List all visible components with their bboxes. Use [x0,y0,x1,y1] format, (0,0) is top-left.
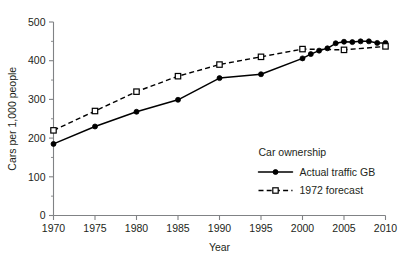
data-point-marker [308,52,313,57]
y-axis-tick-label: 100 [28,171,46,183]
legend-entry-2: 1972 forecast [259,184,364,196]
x-axis-tick-label: 1990 [208,222,232,234]
chart-container: 0100200300400500Cars per 1,000 people197… [0,0,409,266]
data-point-marker [366,39,371,44]
x-axis-tick-label: 2000 [291,222,315,234]
data-point-marker [350,40,355,45]
data-point-marker [175,73,180,78]
data-point-marker [259,72,264,77]
y-axis-title: Cars per 1,000 people [6,67,18,171]
data-point-marker [51,141,56,146]
legend-entry-1: Actual traffic GB [259,166,376,178]
data-point-marker [217,62,222,67]
data-point-marker [383,44,388,49]
data-point-marker [51,128,56,133]
y-axis-tick-label: 400 [28,54,46,66]
legend-title: Car ownership [259,146,327,158]
series-line-actual-traffic-gb [54,41,386,144]
y-axis: 0100200300400500 [28,16,54,222]
legend: Car ownershipActual traffic GB1972 forec… [259,146,376,196]
data-point-marker [342,39,347,44]
x-axis-tick-label: 1985 [166,222,190,234]
x-axis-tick-label: 2010 [374,222,398,234]
x-axis-tick-label: 1970 [42,222,66,234]
x-axis-tick-label: 1995 [249,222,273,234]
data-point-marker [258,54,263,59]
x-axis-tick-label: 1975 [83,222,107,234]
data-point-marker [93,124,98,129]
data-point-marker [217,76,222,81]
x-axis: 197019751980198519901995200020052010 [42,216,398,235]
legend-entry-label: Actual traffic GB [300,166,376,178]
series-line-1972-forecast [54,46,386,130]
legend-marker [273,170,278,175]
data-point-marker [134,89,139,94]
data-point-marker [333,41,338,46]
y-axis-tick-label: 200 [28,132,46,144]
data-point-marker [341,47,346,52]
x-axis-tick-label: 1980 [125,222,149,234]
data-point-marker [134,109,139,114]
y-axis-tick-label: 0 [40,209,46,221]
legend-entry-label: 1972 forecast [300,184,364,196]
x-axis-tick-label: 2005 [332,222,356,234]
data-point-marker [300,46,305,51]
y-axis-tick-label: 300 [28,93,46,105]
legend-marker [273,188,278,193]
data-point-marker [176,97,181,102]
x-axis-title: Year [209,241,231,253]
data-point-marker [300,56,305,61]
series-2 [51,44,388,133]
data-point-marker [92,108,97,113]
data-point-marker [358,39,363,44]
data-point-marker [375,40,380,45]
y-axis-tick-label: 500 [28,16,46,28]
series-1 [51,39,388,147]
car-ownership-line-chart: 0100200300400500Cars per 1,000 people197… [0,0,409,266]
